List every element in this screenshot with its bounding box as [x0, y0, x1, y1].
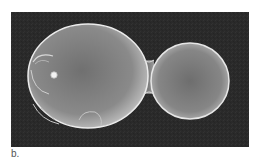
daughter-bud — [151, 43, 229, 119]
figure-caption-label: b. — [11, 148, 19, 160]
micrograph-image — [11, 12, 249, 147]
bud-scar-dot — [51, 72, 57, 78]
budding-yeast-cell-illustration — [11, 12, 249, 147]
